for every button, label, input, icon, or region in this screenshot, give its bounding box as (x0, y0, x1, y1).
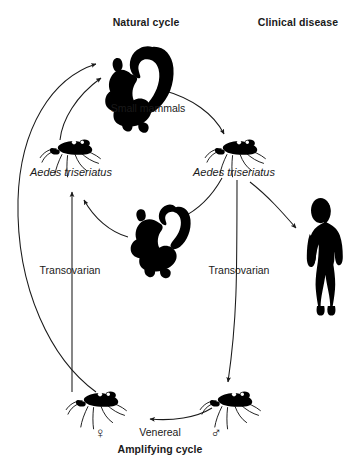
edge-right-vector-to-human (250, 182, 296, 228)
heading-clinical-disease: Clinical disease (258, 17, 338, 28)
female-symbol-icon: ♀ (94, 425, 105, 440)
label-vector-left: Aedes triseriatus (30, 167, 112, 178)
edge-transovarian-right (228, 180, 237, 382)
label-transovarian-right: Transovarian (209, 265, 270, 276)
chipmunk-icon (131, 205, 191, 279)
edge-chipmunk-to-left-vector (84, 200, 128, 237)
heading-amplifying-cycle: Amplifying cycle (117, 444, 202, 455)
label-transovarian-left: Transovarian (40, 265, 101, 276)
squirrel-icon (105, 46, 173, 133)
heading-natural-cycle: Natural cycle (113, 17, 180, 28)
label-venereal: Venereal (139, 427, 180, 438)
male-symbol-icon: ♂ (210, 425, 221, 440)
edge-female-to-squirrel (18, 64, 96, 392)
label-vector-right: Aedes triseriatus (193, 167, 275, 178)
arbovirus-transmission-diagram: Natural cycle Clinical disease Small mam… (0, 0, 360, 465)
silhouette-layer (40, 46, 343, 429)
label-small-mammals: Small mammals (111, 103, 186, 114)
diagram-canvas (0, 0, 360, 465)
human-icon (307, 198, 343, 316)
edge-venereal (150, 408, 212, 420)
mosquito-icon (200, 391, 261, 429)
edge-left-vector-to-squirrel (60, 78, 101, 140)
